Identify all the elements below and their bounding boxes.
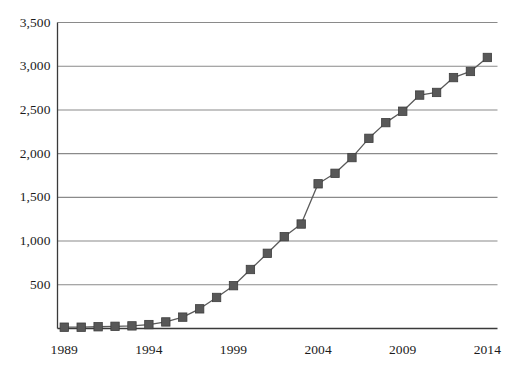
y-tick-label-500: 500	[30, 278, 51, 292]
y-tick-label-2500: 2,500	[20, 103, 51, 117]
data-point-marker	[365, 134, 373, 142]
data-point-marker	[415, 91, 423, 99]
chart-container: 3,5003,0002,5002,0001,5001,000500 198919…	[0, 0, 524, 374]
series-markers	[60, 53, 491, 331]
data-point-marker	[145, 320, 153, 328]
data-point-marker	[195, 305, 203, 313]
data-point-marker	[466, 67, 474, 75]
chart-axes	[58, 23, 498, 329]
x-tick-label-2014: 2014	[457, 343, 517, 357]
data-point-marker	[432, 88, 440, 96]
data-point-marker	[263, 249, 271, 257]
data-point-marker	[297, 220, 305, 228]
x-tick-label-2009: 2009	[373, 343, 433, 357]
line-chart-plot	[0, 0, 524, 374]
gridlines	[58, 23, 498, 285]
data-point-marker	[128, 322, 136, 330]
x-tick-label-1999: 1999	[204, 343, 264, 357]
data-point-marker	[94, 323, 102, 331]
data-point-marker	[77, 323, 85, 331]
data-point-marker	[331, 169, 339, 177]
x-tick-label-1989: 1989	[34, 343, 94, 357]
data-point-marker	[314, 180, 322, 188]
data-point-marker	[382, 118, 390, 126]
y-tick-label-2000: 2,000	[20, 147, 51, 161]
data-point-marker	[229, 281, 237, 289]
data-point-marker	[348, 153, 356, 161]
data-point-marker	[179, 313, 187, 321]
y-tick-label-1000: 1,000	[20, 234, 51, 248]
data-point-marker	[483, 53, 491, 61]
x-tick-label-2004: 2004	[288, 343, 348, 357]
data-point-marker	[212, 293, 220, 301]
data-point-marker	[449, 73, 457, 81]
data-point-marker	[111, 322, 119, 330]
data-point-marker	[60, 323, 68, 331]
data-point-marker	[246, 265, 254, 273]
data-point-marker	[162, 318, 170, 326]
y-tick-label-3000: 3,000	[20, 59, 51, 73]
y-tick-label-1500: 1,500	[20, 190, 51, 204]
y-tick-label-3500: 3,500	[20, 16, 51, 30]
x-tick-label-1994: 1994	[119, 343, 179, 357]
data-point-marker	[280, 233, 288, 241]
data-point-marker	[399, 107, 407, 115]
